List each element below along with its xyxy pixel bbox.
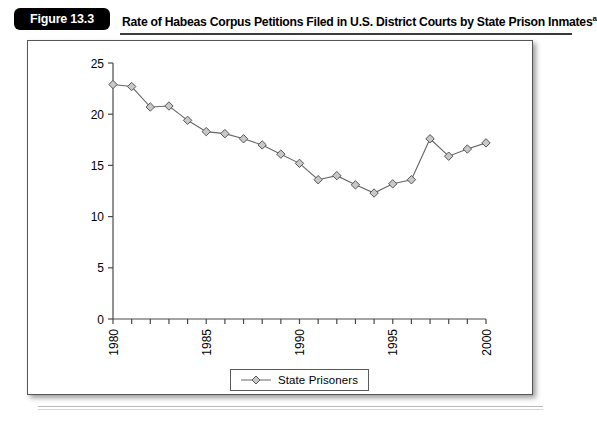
y-axis-tick-label: 15 — [91, 159, 105, 173]
page-divider-top — [38, 406, 543, 407]
data-point-marker — [463, 145, 471, 153]
data-point-marker — [221, 129, 229, 137]
data-point-marker — [351, 181, 359, 189]
figure-title-text: Rate of Habeas Corpus Petitions Filed in… — [122, 15, 592, 29]
x-axis: 19801985199019952000 — [107, 319, 494, 356]
x-axis-tick-label: 1980 — [107, 329, 121, 356]
x-axis-tick-label: 2000 — [480, 329, 494, 356]
figure-number-badge: Figure 13.3 — [14, 8, 110, 30]
line-chart-plot: 0510152025 19801985199019952000 — [28, 41, 532, 394]
header-divider — [120, 33, 572, 35]
y-axis: 0510152025 — [91, 57, 113, 327]
x-axis-tick-label: 1995 — [386, 329, 400, 356]
data-point-marker — [370, 189, 378, 197]
data-point-marker — [407, 176, 415, 184]
chart-frame: 0510152025 19801985199019952000 State Pr… — [27, 40, 533, 395]
data-point-marker — [389, 180, 397, 188]
y-axis-tick-label: 0 — [97, 313, 104, 327]
y-axis-tick-label: 20 — [91, 108, 105, 122]
data-series-state-prisoners — [109, 80, 490, 197]
data-point-marker — [109, 80, 117, 88]
data-point-marker — [239, 135, 247, 143]
footnote-clipped-text — [60, 414, 530, 422]
y-axis-tick-label: 25 — [91, 57, 105, 71]
figure-title-footnote-marker: a — [592, 14, 596, 23]
x-axis-tick-label: 1990 — [293, 329, 307, 356]
y-axis-tick-label: 5 — [97, 261, 104, 275]
page-divider-bottom — [38, 409, 543, 410]
legend-label-state-prisoners: State Prisoners — [278, 374, 358, 386]
y-axis-tick-label: 10 — [91, 210, 105, 224]
x-axis-tick-label: 1985 — [200, 329, 214, 356]
data-point-marker — [333, 171, 341, 179]
legend-marker-diamond-icon — [241, 374, 271, 386]
figure-header: Figure 13.3 Rate of Habeas Corpus Petiti… — [0, 0, 579, 36]
data-point-marker — [277, 150, 285, 158]
figure-title: Rate of Habeas Corpus Petitions Filed in… — [122, 9, 572, 29]
figure-number-label: Figure 13.3 — [14, 8, 110, 30]
data-point-marker — [482, 139, 490, 147]
data-point-marker — [202, 127, 210, 135]
data-point-marker — [258, 141, 266, 149]
chart-legend: State Prisoners — [230, 369, 369, 391]
